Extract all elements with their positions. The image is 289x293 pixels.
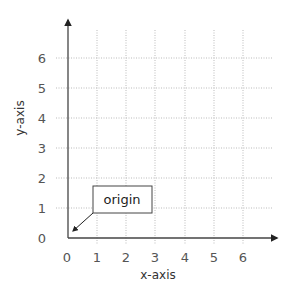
x-tick-3: 3 <box>151 250 159 265</box>
origin-pointer-arrow-icon <box>73 213 93 231</box>
y-tick-5: 5 <box>38 81 46 96</box>
y-axis-title: y-axis <box>13 100 27 135</box>
x-tick-6: 6 <box>239 250 247 265</box>
horizontal-grid-lines <box>56 58 272 208</box>
y-tick-0: 0 <box>38 231 46 246</box>
y-tick-4: 4 <box>38 111 46 126</box>
y-tick-1: 1 <box>38 201 46 216</box>
y-tick-3: 3 <box>38 141 46 156</box>
x-tick-labels: 0 1 2 3 4 5 6 <box>63 250 247 265</box>
x-tick-5: 5 <box>210 250 218 265</box>
x-tick-2: 2 <box>122 250 130 265</box>
x-tick-0: 0 <box>63 250 71 265</box>
coordinate-plane: 0 1 2 3 4 5 6 0 1 2 3 4 5 6 x-axis y-axi… <box>0 0 289 293</box>
y-tick-labels: 0 1 2 3 4 5 6 <box>38 51 46 246</box>
x-tick-4: 4 <box>181 250 189 265</box>
x-axis-title: x-axis <box>140 268 175 282</box>
origin-callout: origin <box>73 186 152 231</box>
y-tick-6: 6 <box>38 51 46 66</box>
y-tick-2: 2 <box>38 171 46 186</box>
origin-callout-label: origin <box>103 192 140 207</box>
x-tick-1: 1 <box>93 250 101 265</box>
